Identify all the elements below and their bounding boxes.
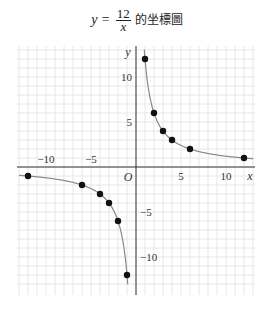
data-point bbox=[169, 137, 175, 143]
data-point bbox=[106, 200, 112, 206]
data-point bbox=[151, 110, 157, 116]
data-point bbox=[241, 155, 247, 161]
data-point bbox=[115, 218, 121, 224]
y-axis-label: y bbox=[124, 45, 131, 59]
y-tick-label: 5 bbox=[127, 116, 133, 128]
y-tick-label: −5 bbox=[140, 206, 152, 218]
y-tick-label: 10 bbox=[121, 71, 133, 83]
origin-label: O bbox=[124, 170, 133, 184]
y-tick-label: −10 bbox=[140, 251, 158, 263]
data-point bbox=[97, 191, 103, 197]
data-point bbox=[160, 128, 166, 134]
data-point bbox=[187, 146, 193, 152]
x-tick-label: 10 bbox=[221, 170, 233, 182]
data-point bbox=[124, 272, 130, 278]
axes bbox=[17, 46, 255, 295]
x-tick-label: −10 bbox=[37, 153, 55, 165]
data-point bbox=[79, 182, 85, 188]
x-tick-label: 5 bbox=[178, 170, 184, 182]
data-point bbox=[25, 173, 31, 179]
hyperbola-chart: −10−5510−10−5510Oxy bbox=[0, 0, 274, 314]
x-tick-label: −5 bbox=[85, 153, 97, 165]
data-point bbox=[142, 56, 148, 62]
x-axis-label: x bbox=[246, 169, 253, 183]
